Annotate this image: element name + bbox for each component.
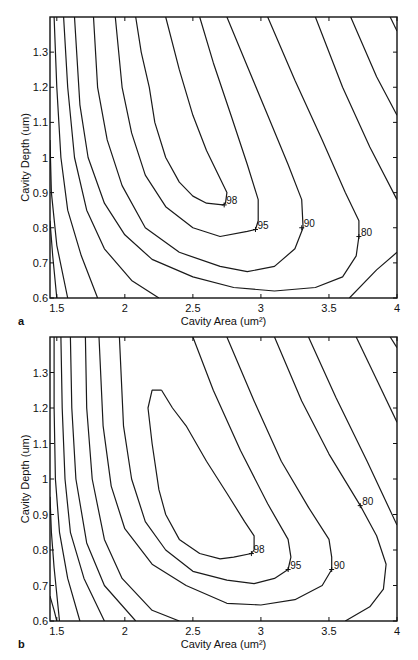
contour-label: 98 (226, 195, 238, 206)
x-tick-label: 4 (394, 302, 400, 314)
y-tick-label: 1.1 (33, 438, 48, 450)
contour-line-90 (94, 17, 304, 272)
y-tick-label: 0.6 (33, 292, 48, 304)
contour-plot-a-svg: 989590801.522.533.540.60.70.80.911.11.21… (0, 0, 418, 330)
y-tick-label: 0.7 (33, 580, 48, 592)
contour-line-95 (119, 337, 291, 584)
contour-line-70 (70, 337, 135, 621)
contour-label: 95 (290, 560, 302, 571)
contour-plot-a: 989590801.522.533.540.60.70.80.911.11.21… (0, 0, 418, 330)
panel-label: b (18, 638, 25, 650)
y-tick-label: 0.8 (33, 222, 48, 234)
contour-label: 95 (257, 220, 269, 231)
y-tick-label: 1.3 (33, 46, 48, 58)
y-tick-label: 1 (42, 152, 48, 164)
contour-line-98 (136, 17, 227, 205)
y-axis-title: Cavity Depth (um) (19, 113, 31, 202)
x-tick-label: 4 (394, 625, 400, 637)
y-tick-label: 1.2 (33, 81, 48, 93)
contour-label: 98 (253, 544, 265, 555)
x-tick-label: 1.5 (49, 625, 64, 637)
x-tick-label: 2.5 (185, 302, 200, 314)
y-tick-label: 0.7 (33, 257, 48, 269)
y-tick-label: 1 (42, 473, 48, 485)
contour-label: 90 (304, 218, 316, 229)
y-tick-label: 0.9 (33, 509, 48, 521)
contour-label: 80 (361, 227, 373, 238)
x-axis-title: Cavity Area (um²) (181, 638, 267, 650)
y-tick-label: 1.2 (33, 402, 48, 414)
contour-line-60 (54, 17, 98, 298)
y-tick-label: 0.8 (33, 544, 48, 556)
contour-label: 80 (362, 496, 374, 507)
contour-line-70 (349, 252, 397, 298)
contour-line-80 (85, 337, 179, 621)
contour-lines (50, 17, 397, 298)
x-tick-label: 2 (122, 302, 128, 314)
y-tick-label: 1.3 (33, 367, 48, 379)
x-tick-label: 2.5 (185, 625, 200, 637)
contour-lines (50, 337, 397, 621)
x-tick-label: 2 (122, 625, 128, 637)
y-tick-label: 0.6 (33, 615, 48, 627)
y-axis-title: Cavity Depth (um) (19, 435, 31, 524)
contour-line-50 (390, 337, 397, 348)
contour-line-70 (309, 337, 398, 525)
contour-line-60 (351, 17, 397, 115)
contour-line-30 (50, 596, 57, 621)
contour-line-50 (50, 140, 68, 298)
contour-line-70 (64, 17, 159, 298)
x-tick-label: 3.5 (321, 625, 336, 637)
contour-line-60 (356, 337, 397, 422)
contour-line-98 (148, 390, 254, 559)
contour-line-50 (390, 17, 397, 31)
y-tick-label: 1.1 (33, 116, 48, 128)
y-tick-label: 0.9 (33, 187, 48, 199)
contour-line-80 (75, 17, 359, 291)
contour-line-70 (315, 17, 397, 200)
plot-frame (50, 17, 397, 298)
x-tick-label: 3 (258, 625, 264, 637)
x-tick-label: 3 (258, 302, 264, 314)
contour-label: 90 (334, 560, 346, 571)
x-tick-label: 1.5 (49, 302, 64, 314)
x-tick-label: 3.5 (321, 302, 336, 314)
contour-plot-b-svg: 989590801.522.533.540.60.70.80.911.11.21… (0, 320, 418, 660)
contour-plot-b: 989590801.522.533.540.60.70.80.911.11.21… (0, 320, 418, 660)
